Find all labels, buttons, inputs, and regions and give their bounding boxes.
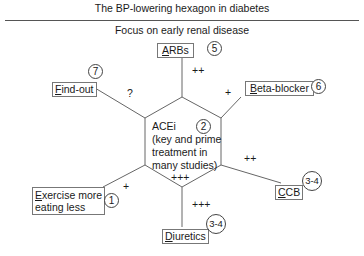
node-diuretics: Diuretics xyxy=(162,229,209,244)
center-acei: ACEi (key and prime treatment in many st… xyxy=(152,120,221,172)
center-label: ACEi xyxy=(152,120,221,133)
node-ccb: CCB xyxy=(275,185,303,200)
rank-badge-ccb: 3-4 xyxy=(302,171,322,191)
connector-beta-blocker xyxy=(221,97,241,118)
node-exercise: Exercise more eating less xyxy=(32,187,105,215)
rank-badge-find-out: 7 xyxy=(88,64,103,79)
node-arbs: ARBs xyxy=(157,43,194,58)
rank-badge-beta-blocker: 6 xyxy=(311,79,326,94)
node-exercise-line1: Exercise more xyxy=(35,189,102,201)
connector-ccb xyxy=(221,165,281,183)
rank-badge-exercise: 1 xyxy=(104,193,119,208)
strength-diuretics: +++ xyxy=(192,198,210,210)
strength-ccb: ++ xyxy=(244,152,256,164)
connector-find-out xyxy=(95,88,145,118)
node-exercise-line2: eating less xyxy=(35,201,102,213)
rank-badge-diuretics: 3-4 xyxy=(206,214,226,234)
strength-beta-blocker: + xyxy=(225,86,231,98)
center-line-1: (key and prime xyxy=(152,133,221,146)
center-line-2: treatment in xyxy=(152,146,221,159)
node-find-out: Find-out xyxy=(52,82,97,97)
rank-badge-arbs: 5 xyxy=(207,41,222,56)
rank-badge-acei: 2 xyxy=(196,119,211,134)
strength-arbs: ++ xyxy=(192,64,204,76)
strength-exercise: + xyxy=(123,180,129,192)
strength-center: +++ xyxy=(171,171,189,183)
node-beta-blocker: Beta-blocker xyxy=(245,81,314,96)
strength-find-out: ? xyxy=(127,87,133,99)
